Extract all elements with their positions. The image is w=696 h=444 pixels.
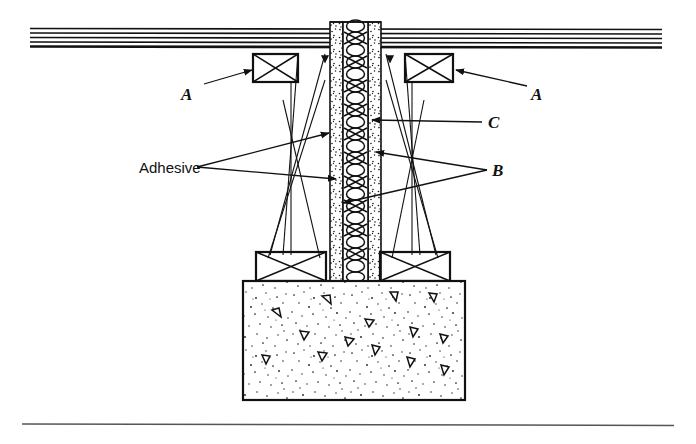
right-tie-lines (386, 54, 438, 258)
label-adhesive: Adhesive (139, 160, 201, 175)
leader-a-right (456, 70, 527, 86)
leader-c (372, 120, 482, 122)
adhesive-layer-right (368, 22, 381, 281)
label-b: B (492, 162, 503, 179)
upper-left-block-A (253, 54, 298, 82)
lower-right-block (380, 252, 450, 281)
technical-diagram-figure: A A C B Adhesive (0, 0, 696, 444)
left-tie-lines (268, 54, 325, 258)
diagram-canvas (0, 0, 696, 444)
lower-left-block (256, 252, 326, 281)
upper-right-block-A (405, 54, 453, 82)
leader-b-1 (376, 152, 487, 170)
leader-adhesive-2 (197, 167, 336, 179)
label-c: C (488, 114, 499, 131)
leader-adhesive-1 (197, 133, 329, 167)
leader-a-left (204, 70, 252, 84)
adhesive-layer-left (330, 22, 343, 281)
label-a-right: A (531, 86, 542, 103)
label-a-left: A (181, 86, 192, 103)
baseline-rule (22, 424, 674, 426)
